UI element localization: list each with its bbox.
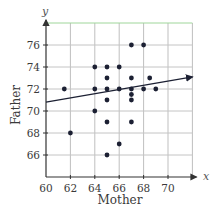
data-point xyxy=(129,87,134,92)
data-point xyxy=(117,65,122,70)
x-axis-variable: x xyxy=(203,170,210,183)
data-point xyxy=(129,76,134,81)
data-point xyxy=(92,109,97,114)
data-point xyxy=(105,120,110,125)
data-point xyxy=(129,120,134,125)
x-tick-label: 70 xyxy=(161,182,174,194)
data-point xyxy=(105,65,110,70)
x-axis-title: Mother xyxy=(98,193,143,207)
x-tick-label: 60 xyxy=(39,182,52,194)
data-point xyxy=(141,43,146,48)
data-point xyxy=(117,142,122,147)
scatter-chart: 606264666870666870727476 Mother Father x… xyxy=(0,0,219,219)
data-point xyxy=(105,87,110,92)
data-point xyxy=(92,87,97,92)
data-point xyxy=(105,98,110,103)
y-axis-variable: y xyxy=(41,5,49,18)
y-tick-label: 66 xyxy=(27,149,41,161)
data-point xyxy=(117,87,122,92)
x-tick-label: 62 xyxy=(64,182,77,194)
data-point xyxy=(105,76,110,81)
data-point xyxy=(62,87,67,92)
data-point xyxy=(129,43,134,48)
data-point xyxy=(141,87,146,92)
y-axis-title: Father xyxy=(9,85,23,125)
y-tick-label: 74 xyxy=(27,61,41,73)
y-tick-label: 72 xyxy=(27,83,40,95)
data-point xyxy=(153,87,158,92)
data-point xyxy=(129,92,134,97)
data-point xyxy=(129,98,134,103)
data-point xyxy=(92,65,97,70)
y-tick-label: 68 xyxy=(27,127,40,139)
grid-lines xyxy=(46,23,192,177)
data-point xyxy=(105,153,110,158)
y-tick-label: 76 xyxy=(27,39,41,51)
y-tick-label: 70 xyxy=(27,105,40,117)
data-point xyxy=(147,76,152,81)
tick-labels: 606264666870666870727476 xyxy=(27,39,175,194)
data-point xyxy=(68,131,73,136)
